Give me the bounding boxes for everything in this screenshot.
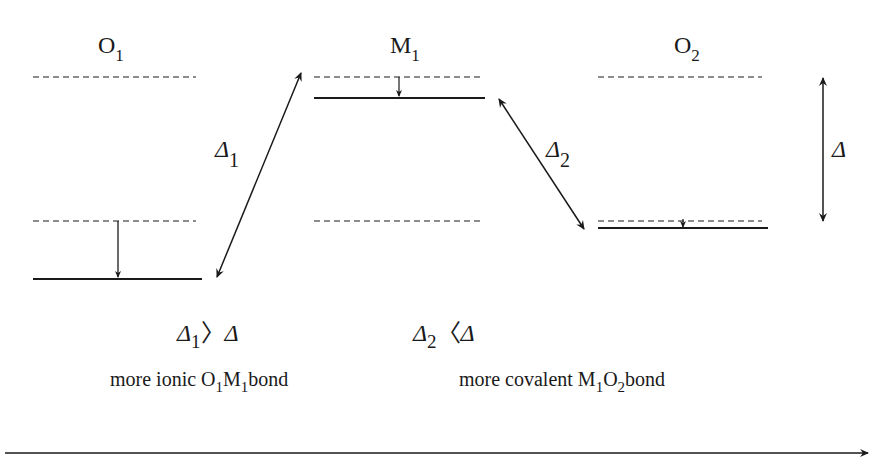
caption-ionic-bond: more ionic O1M1bond (110, 368, 288, 396)
delta1-label: Δ1 (215, 136, 239, 172)
relation1-lhs-sub: 1 (191, 331, 201, 352)
relation2-lhs-sub: 2 (427, 331, 437, 352)
caption1-prefix: more ionic (110, 368, 201, 390)
caption2-suffix: bond (625, 368, 665, 390)
relation2-lhs: Δ (413, 320, 427, 346)
caption1-atom-a: O (201, 368, 215, 390)
column-title-m1: M1 (390, 32, 420, 66)
relation-delta1-gt-delta: Δ1〉Δ (177, 313, 239, 353)
column-title-o1: O1 (98, 32, 124, 66)
caption2-atom-b: O (603, 368, 617, 390)
delta1-subscript: 1 (229, 149, 239, 171)
caption-covalent-bond: more covalent M1O2bond (459, 368, 665, 396)
caption2-prefix: more covalent (459, 368, 578, 390)
delta-symbol: Δ (832, 136, 846, 162)
delta2-symbol: Δ (546, 136, 560, 162)
caption1-atom-b: M (223, 368, 241, 390)
relation-delta2-lt-delta: Δ2〈Δ (413, 313, 475, 353)
caption2-atom-a: M (578, 368, 596, 390)
m1-symbol: M (390, 32, 411, 58)
delta1-symbol: Δ (215, 136, 229, 162)
caption1-atom-a-sub: 1 (216, 379, 224, 395)
relation2-rhs: Δ (461, 320, 475, 346)
relation1-operator: 〉 (201, 320, 225, 346)
delta-label: Δ (832, 136, 846, 163)
caption1-suffix: bond (248, 368, 288, 390)
m1-subscript: 1 (411, 46, 420, 65)
relation1-rhs: Δ (225, 320, 239, 346)
caption2-atom-b-sub: 2 (618, 379, 626, 395)
delta2-double-arrow (499, 99, 584, 229)
delta1-double-arrow (217, 73, 301, 277)
o2-subscript: 2 (691, 46, 700, 65)
relation1-lhs: Δ (177, 320, 191, 346)
o1-symbol: O (98, 32, 115, 58)
delta2-subscript: 2 (560, 149, 570, 171)
o1-subscript: 1 (115, 46, 124, 65)
o2-symbol: O (674, 32, 691, 58)
column-title-o2: O2 (674, 32, 700, 66)
delta2-label: Δ2 (546, 136, 570, 172)
relation2-operator: 〈 (437, 320, 461, 346)
